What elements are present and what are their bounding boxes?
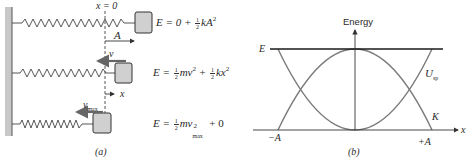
eq3-half: 12 — [174, 118, 179, 131]
displacement-label: x — [120, 88, 124, 100]
pos-amplitude-label: +A — [418, 136, 431, 148]
spring-stretched — [12, 19, 135, 27]
vmax-label: vmax — [83, 99, 98, 111]
eq1-half: 12 — [195, 17, 200, 30]
eq2-kinetic: mv — [180, 66, 193, 78]
eq2-half-a: 12 — [174, 67, 179, 80]
velocity-label: v — [109, 48, 113, 60]
equation-max-displacement: E = 0 + 12kA2 — [156, 16, 216, 30]
equation-general: E = 12mv2 + 12kx2 — [153, 66, 229, 80]
eq3-lhs: E = — [153, 117, 173, 129]
eq1-term: kA — [201, 16, 213, 28]
eq2-half-b: 12 — [210, 67, 215, 80]
usp-symbol: U — [425, 67, 433, 79]
kinetic-energy-label: K — [432, 111, 439, 123]
eq2-potential: kx — [216, 66, 226, 78]
block-at-equilibrium — [93, 113, 111, 133]
caption-b: (b) — [348, 146, 360, 157]
vmax-subscript: max — [87, 106, 97, 112]
caption-a: (a) — [95, 146, 107, 157]
diagram-canvas — [0, 0, 466, 162]
eq2-exp-b: 2 — [226, 65, 230, 73]
eq2-lhs: E = — [153, 66, 173, 78]
spring-mid — [12, 69, 115, 77]
x-axis-label: x — [461, 124, 465, 136]
potential-energy-label: Usp — [425, 67, 438, 79]
eq1-lhs: E = 0 + — [156, 16, 194, 28]
origin-label: x = 0 — [96, 0, 117, 12]
eq2-plus: + — [196, 66, 209, 78]
eq3-tail: + 0 — [206, 117, 223, 129]
equation-equilibrium: E = 12mv2max + 0 — [153, 117, 224, 131]
neg-amplitude-label: −A — [268, 132, 281, 144]
eq3-kinetic: mv — [180, 117, 193, 129]
block-at-x — [115, 63, 132, 83]
usp-subscript: sp — [433, 75, 438, 81]
wall — [5, 7, 12, 136]
spring-equilibrium — [12, 120, 93, 128]
amplitude-label: A — [114, 29, 121, 41]
energy-axis-label: Energy — [343, 16, 373, 28]
block-at-amplitude — [135, 12, 152, 33]
eq1-exp: 2 — [213, 15, 217, 23]
total-energy-label: E — [259, 43, 265, 55]
